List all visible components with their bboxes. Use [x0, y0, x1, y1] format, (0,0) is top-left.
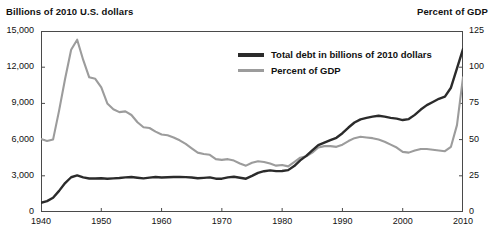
right-axis-title: Percent of GDP: [417, 6, 488, 17]
x-axis-tick-label: 1990: [322, 217, 362, 226]
x-axis-tick-label: 1960: [142, 217, 182, 226]
y-axis-left-tick-label: 0: [0, 207, 34, 216]
x-axis-tick-label: 1980: [262, 217, 302, 226]
y-axis-left-tick-label: 6,000: [0, 135, 34, 144]
legend-swatch-total-debt: [238, 53, 264, 57]
chart-legend: Total debt in billions of 2010 dollars P…: [238, 50, 432, 75]
chart-figure: Billions of 2010 U.S. dollars Percent of…: [0, 0, 494, 245]
x-axis-tick-label: 2010: [443, 217, 483, 226]
legend-item-percent-of-gdp: Percent of GDP: [238, 66, 432, 76]
y-axis-right-tick-label: 25: [469, 171, 479, 180]
y-axis-left-tick-label: 9,000: [0, 98, 34, 107]
left-axis-title: Billions of 2010 U.S. dollars: [6, 6, 133, 17]
y-axis-right-tick-label: 125: [469, 26, 484, 35]
y-axis-right-tick-label: 100: [469, 62, 484, 71]
legend-swatch-percent-of-gdp: [238, 69, 264, 72]
legend-label-total-debt: Total debt in billions of 2010 dollars: [271, 50, 432, 60]
x-axis-tick-label: 2000: [383, 217, 423, 226]
y-axis-left-tick-label: 12,000: [0, 62, 34, 71]
x-axis-tick-label: 1950: [81, 217, 121, 226]
x-axis-tick-label: 1940: [21, 217, 61, 226]
y-axis-left-tick-label: 15,000: [0, 26, 34, 35]
y-axis-left-tick-label: 3,000: [0, 171, 34, 180]
y-axis-right-tick-label: 0: [469, 207, 474, 216]
legend-item-total-debt: Total debt in billions of 2010 dollars: [238, 50, 432, 60]
y-axis-right-tick-label: 50: [469, 135, 479, 144]
legend-label-percent-of-gdp: Percent of GDP: [271, 66, 341, 76]
y-axis-right-tick-label: 75: [469, 98, 479, 107]
x-axis-tick-label: 1970: [202, 217, 242, 226]
